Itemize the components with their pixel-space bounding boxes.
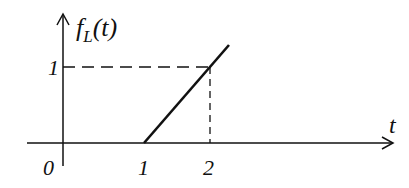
plot-svg: fL(t) t 0 1 2 1 [0,0,409,188]
ramp-function-diagram: fL(t) t 0 1 2 1 [0,0,409,188]
ramp-line [144,45,229,143]
y-tick-1: 1 [48,55,59,80]
x-tick-1: 1 [138,155,149,180]
origin-label: 0 [43,155,54,180]
x-tick-2: 2 [203,155,214,180]
x-axis-label: t [389,112,397,138]
y-axis-label: fL(t) [76,13,117,46]
